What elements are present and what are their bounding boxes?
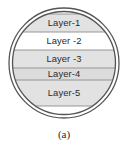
diagram-svg: Layer-1 Layer -2 Layer -3 Layer-4 Layer-… bbox=[0, 0, 128, 126]
figure-container: Layer-1 Layer -2 Layer -3 Layer-4 Layer-… bbox=[0, 0, 128, 151]
layer-label-5: Layer-5 bbox=[48, 87, 81, 98]
layer-label-1: Layer-1 bbox=[48, 17, 81, 28]
figure-caption: (a) bbox=[0, 128, 128, 140]
layered-circle-diagram: Layer-1 Layer -2 Layer -3 Layer-4 Layer-… bbox=[0, 0, 128, 126]
layer-label-2: Layer -2 bbox=[46, 35, 81, 46]
layer-label-3: Layer -3 bbox=[46, 53, 81, 64]
layer-label-4: Layer-4 bbox=[48, 68, 81, 79]
